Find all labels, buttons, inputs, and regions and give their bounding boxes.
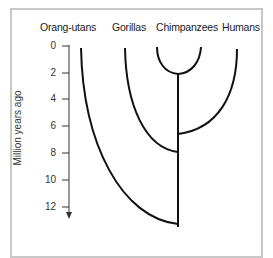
branch-gorillas: [125, 48, 178, 152]
y-axis: [62, 45, 69, 216]
y-axis-arrow-icon: [66, 212, 72, 219]
branch-chimpanzees: [157, 47, 201, 74]
branch-humans: [178, 49, 237, 134]
branch-orang-utans: [81, 48, 178, 224]
tree-branches: [81, 47, 237, 227]
